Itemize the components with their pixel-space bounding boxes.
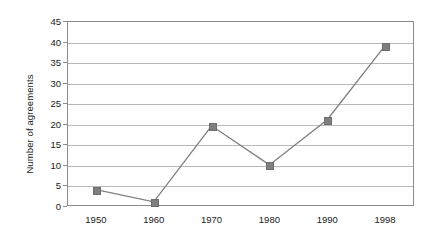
y-tick-label-10: 10: [31, 159, 61, 170]
x-tick-label-1998: 1998: [360, 214, 410, 225]
plot-area: [67, 21, 414, 206]
gridline: [68, 166, 413, 167]
x-tick-label-1990: 1990: [302, 214, 352, 225]
y-tick-mark: [63, 165, 67, 166]
y-tick-mark: [63, 185, 67, 186]
y-tick-label-5: 5: [31, 180, 61, 191]
y-tick-mark: [63, 21, 67, 22]
gridline: [68, 145, 413, 146]
gridline: [68, 104, 413, 105]
chart-figure: Number of agreements 0510152025303540451…: [0, 0, 433, 248]
x-tick-label-1970: 1970: [187, 214, 237, 225]
y-tick-mark: [63, 144, 67, 145]
data-point-1960: [151, 199, 159, 207]
gridline: [68, 43, 413, 44]
x-tick-label-1950: 1950: [71, 214, 121, 225]
y-tick-mark: [63, 206, 67, 207]
gridline: [68, 125, 413, 126]
data-point-1998: [382, 43, 390, 51]
gridline: [68, 84, 413, 85]
y-tick-label-20: 20: [31, 118, 61, 129]
y-tick-mark: [63, 103, 67, 104]
y-tick-label-0: 0: [31, 201, 61, 212]
y-tick-label-40: 40: [31, 36, 61, 47]
gridline: [68, 186, 413, 187]
y-tick-mark: [63, 124, 67, 125]
data-point-1980: [266, 162, 274, 170]
y-tick-label-30: 30: [31, 77, 61, 88]
y-tick-label-35: 35: [31, 57, 61, 68]
data-point-1990: [324, 117, 332, 125]
y-tick-label-45: 45: [31, 16, 61, 27]
y-tick-mark: [63, 42, 67, 43]
y-tick-mark: [63, 83, 67, 84]
data-point-1970: [209, 123, 217, 131]
x-tick-label-1980: 1980: [244, 214, 294, 225]
y-tick-mark: [63, 62, 67, 63]
x-tick-label-1960: 1960: [129, 214, 179, 225]
y-tick-label-25: 25: [31, 98, 61, 109]
data-point-1950: [93, 187, 101, 195]
gridline: [68, 63, 413, 64]
y-tick-label-15: 15: [31, 139, 61, 150]
